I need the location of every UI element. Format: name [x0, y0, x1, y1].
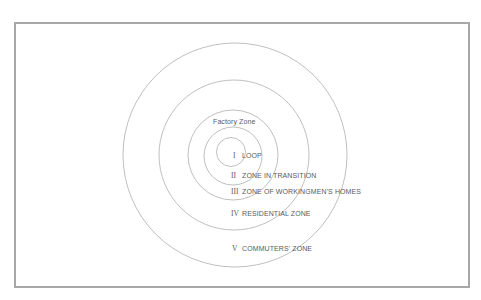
zone-numeral-5: V: [232, 244, 237, 253]
zone-numeral-1: I: [233, 151, 236, 160]
zone-numeral-4: IV: [231, 209, 239, 218]
zone-label-loop: LOOP: [242, 151, 262, 160]
zone-label-commuters: COMMUTERS' ZONE: [242, 244, 312, 253]
zone-label-transition: ZONE IN TRANSITION: [242, 171, 316, 180]
zone-numeral-2: II: [231, 171, 236, 180]
zone-label-residential: RESIDENTIAL ZONE: [242, 209, 311, 218]
factory-zone-label: Factory Zone: [213, 117, 255, 126]
concentric-rings: [0, 0, 481, 300]
zone-numeral-3: III: [231, 187, 239, 196]
zone-label-workingmens-homes: ZONE OF WORKINGMEN'S HOMES: [242, 187, 361, 196]
